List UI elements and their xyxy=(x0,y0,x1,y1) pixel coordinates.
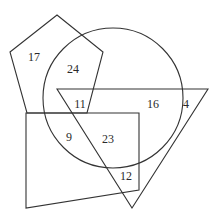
region-label-circle-triangle: 16 xyxy=(147,98,159,110)
region-label-triangle-quadrilateral: 12 xyxy=(120,170,132,182)
region-label-circle-triangle-quadrilateral: 23 xyxy=(102,133,114,145)
circle-shape xyxy=(43,28,183,168)
region-label-pentagon-circle-triangle: 11 xyxy=(74,98,86,110)
region-label-pentagon-only: 17 xyxy=(28,51,40,63)
venn-diagram: 17 24 11 16 4 9 23 12 xyxy=(0,0,220,220)
region-label-circle-quadrilateral: 9 xyxy=(66,131,72,143)
region-label-pentagon-circle: 24 xyxy=(67,63,79,75)
region-label-triangle-only: 4 xyxy=(183,98,189,110)
pentagon-shape xyxy=(10,15,103,113)
